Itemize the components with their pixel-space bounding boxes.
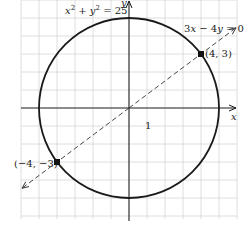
x-axis-label: x [231,111,237,122]
line-equation-label: 3x − 4y = 0 [184,23,244,34]
point-label-4-3: (4, 3) [205,48,232,59]
circle-equation-label: x2 + y2 = 25 [65,4,127,16]
circle-line-intersection-diagram: x2 + y2 = 25 3x − 4y = 0 (4, 3) (−4, −3)… [0,0,251,226]
unit-label: 1 [145,120,151,131]
y-axis-label: y [120,0,127,8]
point-4-3 [198,51,204,57]
dashed-line-3x-4y [129,28,236,108]
dashed-line-3x-4y-lower [22,108,129,188]
point-label-neg4-neg3: (−4, −3) [14,158,58,169]
